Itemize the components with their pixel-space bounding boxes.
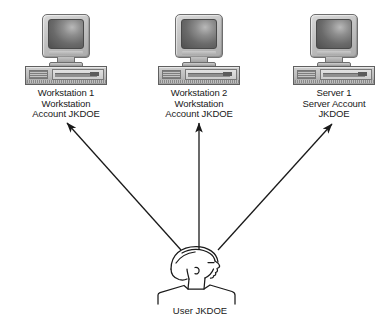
monitor-chin (49, 51, 83, 55)
desktop-computer-icon (25, 14, 107, 86)
computer-case (25, 66, 107, 85)
monitor-screen (316, 19, 352, 49)
case-base-strip (27, 80, 106, 83)
computer-case (158, 66, 240, 85)
case-vent (297, 70, 316, 79)
monitor-screen (181, 19, 217, 49)
computer-case (293, 66, 375, 85)
node-user-jkdoe[interactable]: User JKDOE (148, 243, 252, 316)
user-caption: User JKDOE (148, 305, 252, 316)
desktop-computer-icon (293, 14, 375, 86)
diagram-canvas: Workstation 1 Workstation Account JKDOE … (0, 0, 379, 330)
node-workstation-1[interactable]: Workstation 1 Workstation Account JKDOE (1, 14, 131, 120)
case-eject-button (90, 72, 99, 76)
node-workstation-2[interactable]: Workstation 2 Workstation Account JKDOE (134, 14, 264, 120)
case-base-strip (160, 80, 239, 83)
monitor-chin (317, 51, 351, 55)
node-caption: Server 1 Server Account JKDOE (269, 88, 379, 120)
arrow-to-server-1 (218, 124, 332, 250)
node-caption: Workstation 2 Workstation Account JKDOE (134, 88, 264, 120)
user-head-profile-icon (148, 243, 252, 305)
monitor-bezel (175, 14, 223, 58)
monitor-screen (48, 19, 84, 49)
node-caption: Workstation 1 Workstation Account JKDOE (1, 88, 131, 120)
monitor-bezel (42, 14, 90, 58)
desktop-computer-icon (158, 14, 240, 86)
node-server-1[interactable]: Server 1 Server Account JKDOE (269, 14, 379, 120)
arrow-to-workstation-1 (67, 123, 181, 250)
case-vent (29, 70, 48, 79)
case-vent (162, 70, 181, 79)
case-eject-button (223, 72, 232, 76)
monitor-bezel (310, 14, 358, 58)
case-eject-button (358, 72, 367, 76)
monitor-chin (182, 51, 216, 55)
case-base-strip (295, 80, 374, 83)
